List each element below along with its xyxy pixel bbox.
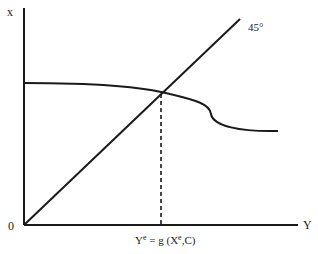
equilibrium-label: Ye = g (Xe,C): [135, 233, 196, 247]
forty-five-degree-line: [24, 19, 240, 225]
forty-five-degree-label: 45°: [248, 21, 263, 33]
x-axis-label: Y: [303, 218, 312, 232]
g-curve: [24, 83, 278, 131]
origin-label: 0: [8, 219, 14, 233]
y-axis-label: x: [7, 5, 13, 19]
diagram-canvas: x Y 0 45° Ye = g (Xe,C): [0, 0, 318, 254]
